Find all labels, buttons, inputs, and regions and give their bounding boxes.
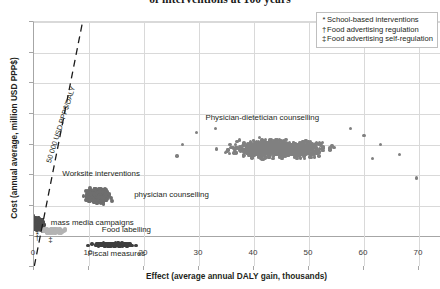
y-axis-tick bbox=[29, 205, 33, 206]
y-axis-tick bbox=[29, 21, 33, 22]
x-axis-tick bbox=[198, 266, 199, 270]
legend: *School-based interventions†Food adverti… bbox=[316, 12, 438, 48]
x-axis-tick bbox=[88, 266, 89, 270]
scatter-chart: of interventions at 100 years 50 000 USD… bbox=[0, 0, 440, 289]
x-axis-tick bbox=[143, 266, 144, 270]
x-axis-tick-label: 20 bbox=[139, 248, 148, 257]
x-axis-tick-label: 50 bbox=[304, 248, 313, 257]
y-axis-tick bbox=[29, 235, 33, 236]
legend-label: Food advertising regulation bbox=[327, 25, 419, 34]
cost-effectiveness-threshold-line bbox=[34, 22, 440, 266]
legend-item: *School-based interventions bbox=[321, 15, 433, 25]
cluster-annotation: Fiscal measures bbox=[88, 249, 145, 258]
legend-label: Food advertising self-regulation bbox=[327, 34, 433, 43]
legend-item: ‡Food advertising self-regulation bbox=[321, 34, 433, 44]
chart-title: of interventions at 100 years bbox=[0, 0, 440, 5]
y-axis-tick bbox=[29, 82, 33, 83]
legend-item: †Food advertising regulation bbox=[321, 25, 433, 35]
legend-label: School-based interventions bbox=[327, 15, 419, 24]
x-axis-tick bbox=[33, 266, 34, 270]
x-axis-tick-label: 30 bbox=[194, 248, 203, 257]
x-axis-tick bbox=[363, 266, 364, 270]
x-axis-tick bbox=[418, 266, 419, 270]
cluster-annotation: Physician-dietetician counselling bbox=[205, 113, 319, 122]
special-intervention-marker: ‡ bbox=[48, 234, 52, 243]
x-axis-tick-label: 10 bbox=[84, 248, 93, 257]
cluster-annotation: Worksite interventions bbox=[62, 169, 139, 178]
y-axis-tick bbox=[29, 52, 33, 53]
special-intervention-marker: † bbox=[35, 232, 39, 241]
plot-area: 50 000 USD PPP$/DALYPhysician-dieteticia… bbox=[33, 21, 440, 266]
cluster-annotation: Food labelling bbox=[102, 225, 151, 234]
y-axis-tick bbox=[29, 113, 33, 114]
x-axis-tick-label: 40 bbox=[249, 248, 258, 257]
y-axis-tick bbox=[29, 144, 33, 145]
x-axis-tick-label: 0 bbox=[31, 248, 35, 257]
y-axis-tick bbox=[29, 174, 33, 175]
x-axis-tick bbox=[308, 266, 309, 270]
x-axis-tick-label: 70 bbox=[414, 248, 423, 257]
x-axis-tick bbox=[253, 266, 254, 270]
x-axis-title: Effect (average annual DALY gain, thousa… bbox=[33, 271, 440, 281]
y-axis-title: Cost (annual average, million USD PPP$) bbox=[9, 38, 19, 238]
x-axis-tick-label: 60 bbox=[359, 248, 368, 257]
cluster-annotation: physician counselling bbox=[134, 190, 209, 199]
